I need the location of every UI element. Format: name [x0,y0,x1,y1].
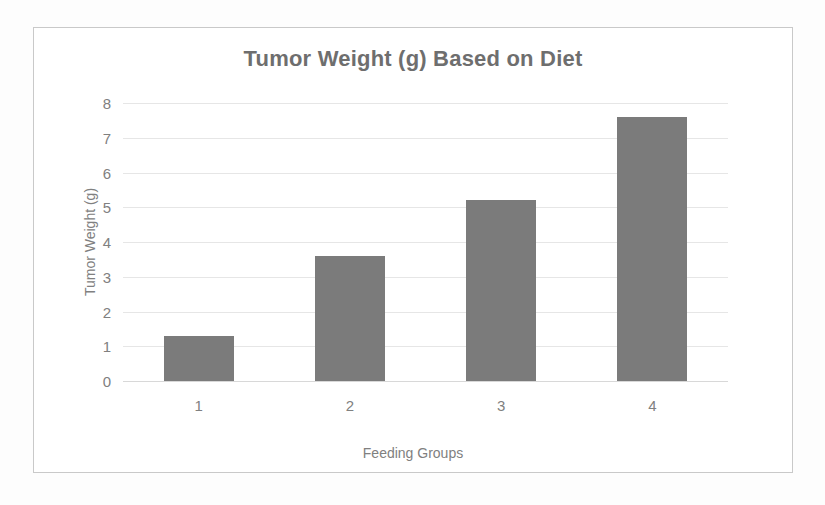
x-tick-slot: 2 [274,103,425,381]
y-axis-tick-label: 6 [103,164,111,181]
chart-title: Tumor Weight (g) Based on Diet [34,46,792,72]
page-background: Tumor Weight (g) Based on Diet Tumor Wei… [0,0,825,505]
y-axis-tick-label: 2 [103,303,111,320]
x-axis-tick-label: 2 [346,397,354,414]
x-axis-tick-label: 4 [648,397,656,414]
y-axis-tick-label: 1 [103,338,111,355]
y-axis-tick-label: 5 [103,199,111,216]
x-axis-tick-label: 1 [194,397,202,414]
x-axis-tick-label: 3 [497,397,505,414]
x-tick-slot: 1 [123,103,274,381]
chart-frame: Tumor Weight (g) Based on Diet Tumor Wei… [33,27,793,473]
y-axis-tick-label: 0 [103,373,111,390]
y-axis-tick-label: 4 [103,234,111,251]
x-tick-slot: 3 [426,103,577,381]
plot-area: 876543210 1234 [123,103,728,381]
y-axis-tick-label: 3 [103,268,111,285]
x-axis-title: Feeding Groups [34,445,792,461]
x-tick-slot: 4 [577,103,728,381]
gridline [123,381,728,382]
y-axis-tick-label: 8 [103,95,111,112]
y-axis-title: Tumor Weight (g) [82,188,98,296]
y-axis-tick-label: 7 [103,129,111,146]
